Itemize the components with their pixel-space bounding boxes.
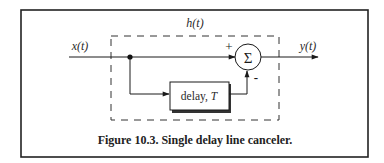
system-label-h: h(t) [186,16,203,30]
delay-block-label: delay, T [181,90,219,103]
sigma-icon: Σ [244,50,253,66]
branch-to-delay-line [130,57,169,94]
output-label-y: y(t) [299,39,317,53]
minus-sign: - [254,70,258,85]
delay-to-summer-line [229,71,247,94]
plus-sign: + [225,39,232,54]
input-label-x: x(t) [71,39,89,53]
figure-canvas: h(t) x(t) delay, T Σ + - y(t) Figure 10.… [0,0,384,163]
figure-caption: Figure 10.3. Single delay line canceler. [98,133,293,147]
